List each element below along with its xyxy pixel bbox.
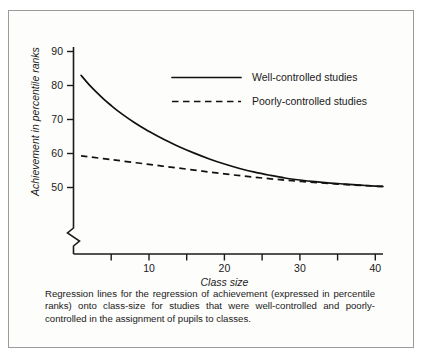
chart-plot-area: 90 80 70 60 50 Achievement in percentile… xyxy=(9,11,413,289)
regression-line-chart: 90 80 70 60 50 Achievement in percentile… xyxy=(9,11,413,289)
chart-legend: Well-controlled studies Poorly-controlle… xyxy=(172,71,367,107)
y-axis-tick-labels: 90 80 70 60 50 xyxy=(51,45,63,193)
x-axis-ticks xyxy=(111,254,375,261)
y-axis-break-symbol xyxy=(68,218,80,254)
legend-label: Poorly-controlled studies xyxy=(252,95,367,107)
y-axis-ticks xyxy=(67,52,74,188)
y-tick-label: 60 xyxy=(51,147,63,159)
legend-entry-well-controlled[interactable]: Well-controlled studies xyxy=(172,71,357,83)
y-tick-label: 80 xyxy=(51,79,63,91)
legend-label: Well-controlled studies xyxy=(252,71,357,83)
series-line-well-controlled xyxy=(81,75,383,186)
x-axis-tick-labels: 10 20 30 40 xyxy=(143,262,381,274)
x-tick-label: 30 xyxy=(294,262,306,274)
x-tick-label: 40 xyxy=(369,262,381,274)
x-axis-title: Class size xyxy=(200,276,248,288)
y-axis-title: Achievement in percentile ranks xyxy=(29,46,41,197)
x-tick-label: 20 xyxy=(219,262,231,274)
x-tick-label: 10 xyxy=(143,262,155,274)
series-line-poorly-controlled xyxy=(81,156,383,187)
figure-caption: Regression lines for the regression of a… xyxy=(45,288,375,325)
y-tick-label: 50 xyxy=(51,181,63,193)
y-tick-label: 90 xyxy=(51,45,63,57)
legend-entry-poorly-controlled[interactable]: Poorly-controlled studies xyxy=(172,95,367,107)
y-tick-label: 70 xyxy=(51,113,63,125)
figure-frame: 90 80 70 60 50 Achievement in percentile… xyxy=(8,10,414,348)
